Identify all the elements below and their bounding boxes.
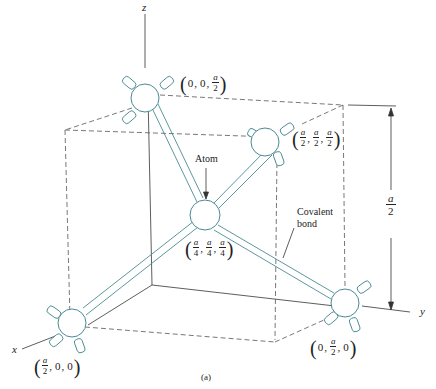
coord-label-front-left: ( a2, 0, 0 ) xyxy=(34,356,80,376)
x-axis-label: x xyxy=(12,344,17,355)
covalent-bond-annotation: Covalent bond xyxy=(297,206,333,230)
coord-label-upper-right: ( a2, a2, a2 ) xyxy=(292,128,340,148)
coord-label-top: ( 0, 0, a2 ) xyxy=(180,73,226,93)
coord-label-center: ( a4, a4, a4 ) xyxy=(185,238,233,258)
z-axis-label: z xyxy=(142,2,146,13)
atom-center xyxy=(190,200,220,230)
atom-front-left xyxy=(58,309,86,337)
coord-label-bottom-right: ( 0, a2, 0 ) xyxy=(310,337,356,357)
figure-caption: (a) xyxy=(201,373,211,382)
diamond-lattice-diagram xyxy=(0,0,436,389)
atom-top xyxy=(131,84,159,112)
atom-bottom-right xyxy=(331,289,359,317)
y-axis xyxy=(362,306,410,312)
dimension-label: a 2 xyxy=(386,192,396,217)
atom-upper-right xyxy=(251,128,279,156)
y-axis-label: y xyxy=(420,306,425,317)
atom-annotation: Atom xyxy=(195,154,218,164)
